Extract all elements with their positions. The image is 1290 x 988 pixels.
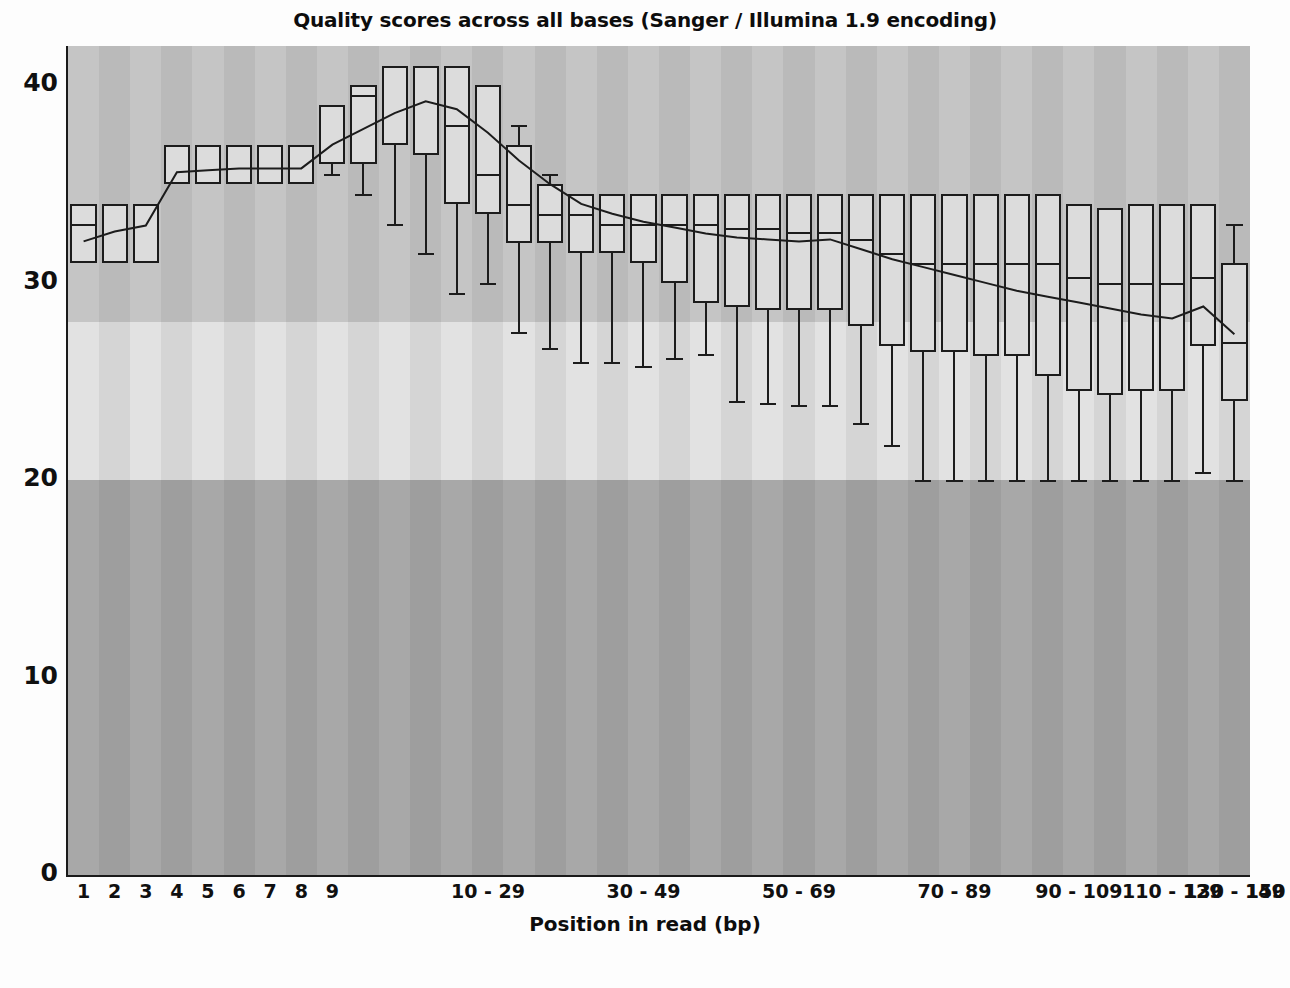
x-axis-tick: 30 - 49 [583,880,703,902]
x-axis-line [66,875,1250,877]
x-axis-tick: 50 - 69 [739,880,859,902]
y-axis-tick: 30 [0,266,58,295]
x-axis-tick: 10 - 29 [428,880,548,902]
y-axis-tick: 20 [0,463,58,492]
page-title: Quality scores across all bases (Sanger … [0,8,1290,32]
x-axis-tick: 9 [272,880,392,902]
x-axis-title: Position in read (bp) [0,912,1290,936]
y-axis-tick: 40 [0,68,58,97]
mean-quality-line [68,46,1250,875]
x-axis-tick-labels: 12345678910 - 2930 - 4950 - 6970 - 8990 … [68,880,1250,908]
y-axis-tick: 10 [0,661,58,690]
chart-page: Quality scores across all bases (Sanger … [0,0,1290,988]
plot-area [68,46,1250,875]
x-axis-tick: 150 [1206,880,1290,902]
x-axis-tick: 70 - 89 [895,880,1015,902]
